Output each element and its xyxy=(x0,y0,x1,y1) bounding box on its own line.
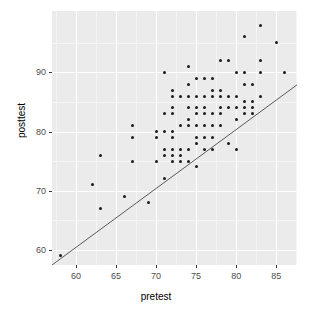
data-point xyxy=(211,95,214,98)
data-point xyxy=(163,130,166,133)
gridline-x-major xyxy=(276,11,277,265)
data-point xyxy=(219,95,222,98)
data-point xyxy=(171,112,174,115)
x-tick-mark xyxy=(276,265,277,268)
data-point xyxy=(251,83,254,86)
data-point xyxy=(171,136,174,139)
gridline-x-minor xyxy=(256,11,257,265)
data-point xyxy=(195,142,198,145)
data-point xyxy=(219,124,222,127)
x-tick-label: 70 xyxy=(141,271,171,281)
data-point xyxy=(211,89,214,92)
data-point xyxy=(91,183,94,186)
data-point xyxy=(179,154,182,157)
data-point xyxy=(187,95,190,98)
plot-panel xyxy=(52,11,297,265)
data-point xyxy=(187,118,190,121)
gridline-x-minor xyxy=(296,11,297,265)
data-point xyxy=(211,112,214,115)
data-point xyxy=(195,165,198,168)
data-point xyxy=(235,95,238,98)
scatter-plot-figure: 60708090 606570758085 pretest posttest xyxy=(0,0,312,314)
x-tick-mark xyxy=(236,265,237,268)
data-point xyxy=(163,154,166,157)
data-point xyxy=(235,148,238,151)
data-point xyxy=(203,136,206,139)
data-point xyxy=(195,95,198,98)
data-point xyxy=(235,118,238,121)
data-point xyxy=(163,112,166,115)
data-point xyxy=(243,35,246,38)
gridline-y-minor xyxy=(52,102,297,103)
x-tick-mark xyxy=(156,265,157,268)
data-point xyxy=(195,124,198,127)
data-point xyxy=(195,106,198,109)
data-point xyxy=(203,148,206,151)
gridline-x-major xyxy=(236,11,237,265)
data-point xyxy=(227,59,230,62)
data-point xyxy=(171,106,174,109)
data-point xyxy=(155,160,158,163)
data-point xyxy=(171,154,174,157)
data-point xyxy=(243,112,246,115)
data-point xyxy=(219,112,222,115)
data-point xyxy=(171,148,174,151)
gridline-x-minor xyxy=(56,11,57,265)
gridline-y-major xyxy=(52,250,297,251)
data-point xyxy=(187,83,190,86)
x-tick-label: 80 xyxy=(221,271,251,281)
gridline-x-minor xyxy=(136,11,137,265)
data-point xyxy=(179,148,182,151)
gridline-y-major xyxy=(52,132,297,133)
data-point xyxy=(211,136,214,139)
x-tick-mark xyxy=(76,265,77,268)
data-point xyxy=(227,142,230,145)
gridline-x-minor xyxy=(96,11,97,265)
data-point xyxy=(227,106,230,109)
data-point xyxy=(259,24,262,27)
data-point xyxy=(163,71,166,74)
data-point xyxy=(59,254,62,257)
x-tick-label: 60 xyxy=(61,271,91,281)
data-point xyxy=(179,160,182,163)
y-tick-label: 70 xyxy=(16,186,46,196)
x-tick-mark xyxy=(196,265,197,268)
gridline-x-minor xyxy=(176,11,177,265)
y-tick-mark xyxy=(49,132,52,133)
y-tick-mark xyxy=(49,72,52,73)
data-point xyxy=(131,136,134,139)
data-point xyxy=(259,71,262,74)
data-point xyxy=(195,77,198,80)
data-point xyxy=(219,59,222,62)
x-tick-mark xyxy=(116,265,117,268)
data-point xyxy=(203,112,206,115)
x-tick-label: 75 xyxy=(181,271,211,281)
data-point xyxy=(187,160,190,163)
y-tick-label: 90 xyxy=(16,67,46,77)
data-point xyxy=(155,130,158,133)
data-point xyxy=(131,160,134,163)
gridline-y-major xyxy=(52,191,297,192)
y-tick-label: 60 xyxy=(16,245,46,255)
x-axis-title: pretest xyxy=(0,291,312,302)
data-point xyxy=(259,59,262,62)
data-point xyxy=(99,207,102,210)
data-point xyxy=(251,106,254,109)
data-point xyxy=(171,95,174,98)
data-point xyxy=(235,71,238,74)
data-point xyxy=(251,112,254,115)
data-point xyxy=(147,201,150,204)
gridline-x-major xyxy=(76,11,77,265)
gridline-y-minor xyxy=(52,161,297,162)
gridline-x-minor xyxy=(216,11,217,265)
x-tick-label: 85 xyxy=(261,271,291,281)
data-point xyxy=(211,77,214,80)
data-point xyxy=(243,100,246,103)
data-point xyxy=(187,148,190,151)
data-point xyxy=(203,95,206,98)
data-point xyxy=(155,136,158,139)
data-point xyxy=(163,148,166,151)
data-point xyxy=(283,71,286,74)
data-point xyxy=(219,89,222,92)
reference-line xyxy=(52,11,297,265)
